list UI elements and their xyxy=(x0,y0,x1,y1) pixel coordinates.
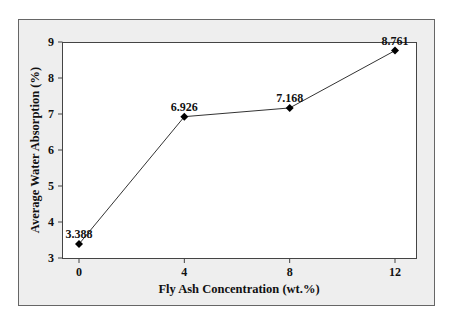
data-label: 7.168 xyxy=(276,91,303,105)
x-tick-label: 0 xyxy=(76,265,82,279)
y-tick-label: 3 xyxy=(48,251,54,265)
x-tick-label: 8 xyxy=(287,265,293,279)
y-tick-label: 4 xyxy=(48,215,54,229)
y-axis-title: Average Water Absorption (%) xyxy=(28,67,42,233)
y-tick-label: 7 xyxy=(48,107,54,121)
data-label: 8.761 xyxy=(382,34,409,48)
chart: 3456789 04812 3.3886.9267.1688.761 Fly A… xyxy=(0,0,451,322)
data-label: 6.926 xyxy=(171,100,198,114)
data-label: 3.388 xyxy=(66,227,93,241)
x-axis-title: Fly Ash Concentration (wt.%) xyxy=(158,282,319,296)
y-tick-label: 8 xyxy=(48,71,54,85)
plot-area xyxy=(63,43,417,259)
x-tick-label: 4 xyxy=(181,265,187,279)
y-tick-label: 9 xyxy=(48,35,54,49)
y-tick-label: 6 xyxy=(48,143,54,157)
x-tick-label: 12 xyxy=(389,265,401,279)
y-tick-label: 5 xyxy=(48,179,54,193)
